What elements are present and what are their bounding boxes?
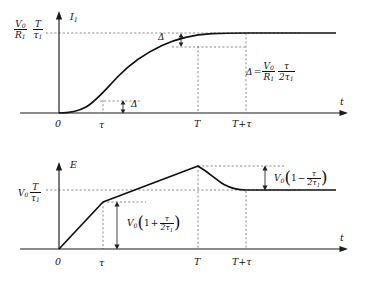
v0-minus-label: V0(1− τ 2τ1 ) [274, 170, 328, 187]
delta-eq-frac-tau: τ 2τ1 [278, 62, 295, 82]
tau-den: τ [34, 30, 39, 40]
bottom-xtick-Ttau: T+τ [232, 257, 252, 267]
top-x-axis-label: t [340, 97, 344, 107]
v0-minus-frac-num: τ [312, 169, 316, 178]
bottom-x-axis-arrowhead [340, 246, 349, 252]
bottom-xtick-T: T [194, 257, 200, 267]
v0-plus-frac-den-sub: 1 [170, 227, 173, 233]
top-delta-upper-label: Δ [158, 33, 165, 42]
v0-plus-frac-den: 2τ [161, 223, 170, 232]
top-ytick-label: V0 R1 T τ1 [14, 20, 43, 40]
top-xtick-0: 0 [55, 119, 61, 129]
r1-den-sub: 1 [22, 33, 26, 40]
delta-equation: Δ= V0 R1 τ 2τ1 [246, 62, 295, 82]
top-ytick-frac-v0r1: V0 R1 [14, 20, 27, 40]
v0-plus-op: + [150, 219, 160, 228]
bottom-x-axis-label: t [340, 233, 344, 243]
bottom-y-axis-arrowhead [56, 162, 62, 171]
bottom-xtick-tau-text: τ [99, 257, 104, 268]
bottom-xtick-T-text: T [194, 256, 200, 267]
top-ytick-frac-Ttau1: T τ1 [33, 20, 44, 40]
bottom-v0-sub: 0 [25, 191, 29, 198]
delta-lower-arrow [121, 100, 126, 114]
top-xtick-Ttau-text: T+τ [232, 118, 252, 129]
top-delta-lower-label: Δ [131, 100, 138, 109]
delta-eq-frac-v0r1: V0 R1 [262, 62, 275, 82]
top-delta-upper-text: Δ [158, 32, 165, 42]
bottom-x-axis-label-text: t [340, 232, 344, 243]
top-xtick-T-text: T [194, 118, 200, 129]
v0-num-sub: 0 [22, 22, 26, 29]
bottom-y-axis-label: E [70, 160, 77, 170]
v0-plus-arrow [114, 201, 119, 249]
physics-figure: I1 t V0 R1 T τ1 0 τ T T+τ Δ Δ Δ= V0 R1 τ… [0, 0, 368, 292]
bottom-v0: V [18, 188, 25, 198]
bottom-xtick-Ttau-text: T+τ [232, 256, 252, 267]
delta-upper-arrow [179, 33, 184, 47]
v0-plus-v: V [127, 218, 134, 228]
delta-eq-tau-den: 2τ [279, 72, 290, 82]
T-num: T [35, 19, 41, 29]
delta-eq-tau-num: τ [284, 61, 289, 71]
v0-minus-lparen: ( [284, 170, 291, 187]
delta-eq-r1-sub: 1 [270, 75, 274, 82]
top-y-axis-label: I1 [70, 12, 78, 22]
bottom-xtick-0-text: 0 [55, 256, 61, 267]
v0-minus-rparen: ) [321, 170, 328, 187]
top-xtick-T: T [194, 119, 200, 129]
top-x-axis-label-text: t [340, 96, 344, 107]
v0-plus-label: V0(1+ τ 2τ1 ) [127, 215, 181, 232]
top-xtick-tau: τ [99, 120, 104, 130]
r1-den: R [15, 30, 22, 40]
top-xtick-0-text: 0 [55, 118, 61, 129]
delta-eq-equals: = [253, 68, 263, 77]
bottom-xtick-0: 0 [55, 257, 61, 267]
top-xtick-Ttau: T+τ [232, 119, 252, 129]
bottom-xtick-tau: τ [99, 258, 104, 268]
v0-minus-v: V [274, 173, 281, 183]
top-delta-lower-text: Δ [131, 99, 138, 109]
bottom-frac-Ttau1: T τ1 [30, 183, 41, 203]
v0-plus-frac: τ 2τ1 [160, 215, 175, 232]
v0-plus-frac-num: τ [165, 214, 169, 223]
bottom-T-num: T [32, 182, 38, 192]
delta-eq-v0-sub: 0 [270, 64, 274, 71]
v0-minus-frac-den: 2τ [308, 178, 317, 187]
v0-minus-arrow [262, 165, 267, 190]
v0-minus-op: − [297, 174, 307, 183]
top-y-axis-arrowhead [56, 11, 62, 20]
bottom-tau-den-sub: 1 [36, 196, 40, 203]
v0-num: V [15, 19, 22, 29]
delta-eq-tau-den-sub: 1 [290, 75, 294, 82]
tau-den-sub: 1 [39, 33, 43, 40]
top-x-axis-arrowhead [340, 110, 349, 116]
v0-minus-frac: τ 2τ1 [307, 170, 322, 187]
v0-minus-frac-den-sub: 1 [317, 182, 320, 188]
v0-plus-lparen: ( [137, 215, 144, 232]
bottom-ytick-label: V0 T τ1 [18, 183, 41, 203]
top-y-axis-label-sub: 1 [74, 16, 78, 24]
bottom-y-axis-label-text: E [70, 159, 77, 170]
top-xtick-tau-text: τ [99, 119, 104, 130]
v0-plus-rparen: ) [174, 215, 181, 232]
